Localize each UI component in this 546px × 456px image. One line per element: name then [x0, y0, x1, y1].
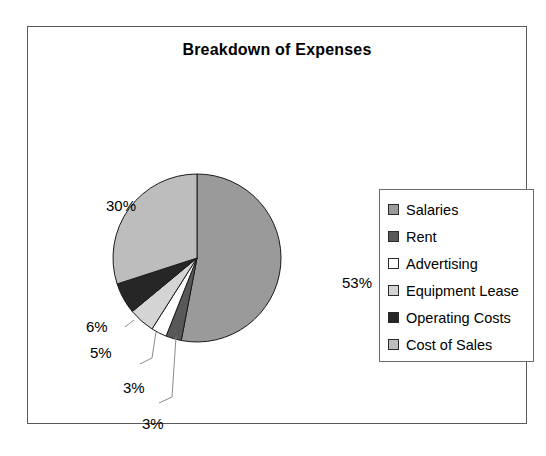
leader-line-advertising: [140, 332, 156, 364]
legend-swatch-icon: [388, 231, 399, 242]
leader-line-equipment-lease: [125, 320, 134, 327]
pie-value-label-operating-costs: 6%: [86, 318, 108, 335]
pie-value-label-cost-of-sales: 30%: [106, 197, 136, 214]
legend-item-label: Cost of Sales: [406, 337, 492, 353]
chart-legend: SalariesRentAdvertisingEquipment LeaseOp…: [379, 189, 534, 362]
legend-item[interactable]: Advertising: [388, 250, 533, 277]
pie-slice-group: [113, 174, 281, 342]
legend-swatch-icon: [388, 339, 399, 350]
legend-item-label: Rent: [406, 229, 437, 245]
legend-item[interactable]: Cost of Sales: [388, 331, 533, 358]
chart-screenshot: Breakdown of Expenses 53% 30% 6% 5% 3% 3…: [0, 0, 546, 456]
legend-item-label: Advertising: [406, 256, 478, 272]
legend-swatch-icon: [388, 312, 399, 323]
pie-value-label-salaries: 53%: [342, 274, 372, 291]
legend-item-label: Salaries: [406, 202, 458, 218]
legend-item[interactable]: Equipment Lease: [388, 277, 533, 304]
legend-swatch-icon: [388, 204, 399, 215]
legend-item[interactable]: Salaries: [388, 196, 533, 223]
pie-value-label-rent: 3%: [142, 415, 164, 432]
leader-line-rent: [159, 337, 176, 403]
pie-value-label-equipment-lease: 5%: [90, 344, 112, 361]
legend-item-label: Operating Costs: [406, 310, 511, 326]
legend-item[interactable]: Operating Costs: [388, 304, 533, 331]
legend-item-label: Equipment Lease: [406, 283, 519, 299]
pie-value-label-advertising: 3%: [123, 379, 145, 396]
legend-item[interactable]: Rent: [388, 223, 533, 250]
legend-swatch-icon: [388, 258, 399, 269]
chart-frame: Breakdown of Expenses 53% 30% 6% 5% 3% 3…: [27, 26, 527, 424]
legend-swatch-icon: [388, 285, 399, 296]
